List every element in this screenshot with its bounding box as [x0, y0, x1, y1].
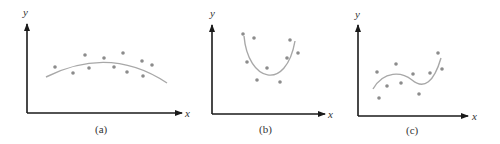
figure-canvas: y x (a) y x (b) y x (c): [0, 0, 500, 144]
x-axis-label: x: [471, 110, 477, 122]
data-point: [385, 84, 389, 88]
data-point: [255, 78, 259, 82]
data-point: [112, 65, 116, 69]
data-point: [288, 38, 292, 42]
data-point: [150, 63, 154, 67]
data-point: [285, 56, 289, 60]
data-point: [140, 59, 144, 63]
data-point: [83, 53, 87, 57]
data-point: [375, 70, 379, 74]
data-point: [241, 32, 245, 36]
data-point: [102, 56, 106, 60]
fitted-curve: [46, 62, 167, 83]
panel-caption: (c): [406, 124, 419, 137]
data-point: [71, 71, 75, 75]
data-point: [265, 66, 269, 70]
data-point: [125, 70, 129, 74]
x-axis-label: x: [327, 108, 333, 120]
data-point: [141, 74, 145, 78]
data-point: [428, 71, 432, 75]
panel-b: y x (b): [209, 7, 333, 136]
data-point: [440, 67, 444, 71]
data-point: [121, 51, 125, 55]
panel-caption: (b): [259, 123, 272, 136]
fitted-curve: [244, 36, 295, 75]
panel-a: y x (a): [22, 6, 190, 136]
y-axis-label: y: [354, 8, 360, 20]
y-axis-label: y: [209, 7, 215, 19]
data-point: [87, 66, 91, 70]
data-point: [296, 51, 300, 55]
data-point: [399, 81, 403, 85]
panel-caption: (a): [95, 123, 108, 136]
scatter-points: [53, 51, 154, 78]
panel-c: y x (c): [354, 8, 477, 137]
data-point: [245, 60, 249, 64]
data-point: [278, 80, 282, 84]
data-point: [417, 92, 421, 96]
y-axis-label: y: [22, 6, 28, 18]
x-axis-label: x: [184, 107, 190, 119]
data-point: [411, 72, 415, 76]
data-point: [53, 65, 57, 69]
data-point: [394, 62, 398, 66]
data-point: [436, 51, 440, 55]
data-point: [252, 36, 256, 40]
data-point: [377, 96, 381, 100]
